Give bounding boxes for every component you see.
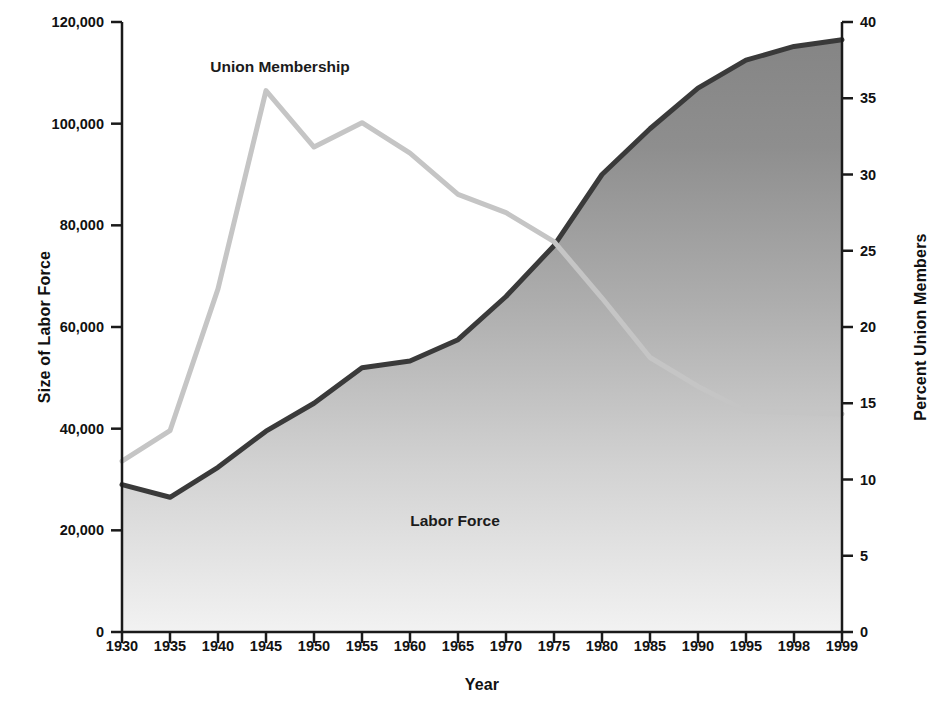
x-tick-label: 1990 [682, 638, 714, 654]
x-tick-label: 1940 [202, 638, 234, 654]
x-tick-label: 1980 [586, 638, 618, 654]
left-tick-label: 100,000 [52, 116, 104, 132]
x-tick-label: 1998 [778, 638, 810, 654]
x-tick-label: 1999 [826, 638, 858, 654]
x-tick-label: 1960 [394, 638, 426, 654]
series-annotation-label: Labor Force [410, 512, 500, 530]
x-tick-label: 1955 [346, 638, 378, 654]
labor-force-area-fill [122, 40, 842, 632]
x-tick-label: 1965 [442, 638, 474, 654]
series-annotation-label: Union Membership [210, 58, 350, 76]
x-tick-label: 1985 [634, 638, 666, 654]
right-tick-label: 40 [860, 14, 876, 30]
left-axis-title: Size of Labor Force [30, 22, 60, 632]
left-tick-label: 120,000 [52, 14, 104, 30]
left-tick-label: 40,000 [60, 421, 104, 437]
right-axis-title: Percent Union Members [906, 22, 931, 632]
x-tick-label: 1995 [730, 638, 762, 654]
x-tick-label: 1970 [490, 638, 522, 654]
x-tick-label: 1945 [250, 638, 282, 654]
right-tick-label: 25 [860, 243, 876, 259]
x-axis-title: Year [122, 676, 842, 694]
right-tick-label: 10 [860, 472, 876, 488]
right-tick-label: 30 [860, 167, 876, 183]
right-axis-ticks [842, 22, 853, 632]
right-tick-label: 0 [860, 624, 868, 640]
x-tick-label: 1935 [154, 638, 186, 654]
x-tick-label: 1950 [298, 638, 330, 654]
x-tick-label: 1930 [106, 638, 138, 654]
left-axis-ticks [111, 22, 122, 632]
right-tick-label: 5 [860, 548, 868, 564]
right-tick-label: 20 [860, 319, 876, 335]
x-tick-label: 1975 [538, 638, 570, 654]
left-tick-label: 20,000 [60, 522, 104, 538]
left-tick-label: 80,000 [60, 217, 104, 233]
right-tick-label: 15 [860, 395, 876, 411]
left-tick-label: 0 [96, 624, 104, 640]
right-tick-label: 35 [860, 90, 876, 106]
left-tick-label: 60,000 [60, 319, 104, 335]
labor-force-area-series [122, 40, 842, 632]
